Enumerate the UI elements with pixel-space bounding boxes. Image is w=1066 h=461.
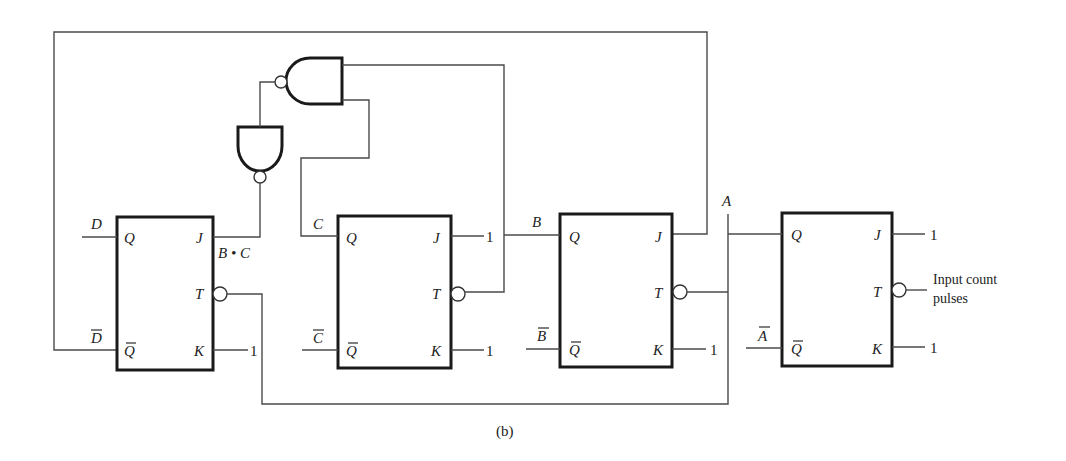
- svg-text:1: 1: [710, 342, 718, 358]
- clock-input-bubble: [892, 283, 906, 297]
- svg-text:1: 1: [486, 343, 494, 359]
- svg-text:Q: Q: [346, 230, 357, 246]
- flip-flop-a: A A Q Q J T K 1 1 Input count pulses: [721, 193, 997, 366]
- clock-inversion-bubble: [451, 287, 465, 301]
- svg-text:K: K: [430, 343, 442, 359]
- signal-c-label: C: [313, 216, 324, 232]
- svg-text:Q: Q: [791, 341, 802, 357]
- signal-bbar-label: B: [537, 328, 546, 344]
- svg-text:Q: Q: [569, 229, 580, 245]
- b-dot-c-label: B • C: [218, 245, 251, 261]
- svg-text:1: 1: [250, 343, 258, 359]
- flip-flop-b: B B Q Q J T K 1: [504, 214, 728, 367]
- signal-a-label: A: [721, 193, 732, 209]
- svg-text:Q: Q: [346, 343, 357, 359]
- svg-text:1: 1: [930, 340, 938, 356]
- signal-cbar-label: C: [313, 330, 324, 346]
- svg-text:K: K: [193, 343, 205, 359]
- svg-text:Q: Q: [124, 230, 135, 246]
- svg-text:Q: Q: [124, 343, 135, 359]
- signal-abar-label: A: [757, 328, 768, 344]
- svg-text:Q: Q: [569, 342, 580, 358]
- svg-text:K: K: [871, 341, 883, 357]
- nand-gate-top: [275, 58, 342, 104]
- svg-text:1: 1: [930, 227, 938, 243]
- counter-schematic: D D Q Q J T K 1 C C Q Q J T K 1 1 B B: [0, 0, 1066, 461]
- svg-text:K: K: [652, 342, 664, 358]
- clock-inversion-bubble: [213, 287, 227, 301]
- clock-inversion-bubble: [673, 285, 687, 299]
- signal-b-label: B: [532, 214, 541, 230]
- signal-dbar-label: D: [90, 330, 102, 346]
- svg-text:Q: Q: [791, 227, 802, 243]
- flip-flop-d: D D Q Q J T K 1: [82, 216, 258, 370]
- svg-text:pulses: pulses: [933, 291, 968, 306]
- input-pulses-label: Input count: [933, 272, 997, 287]
- signal-d-label: D: [90, 216, 102, 232]
- flip-flop-c: C C Q Q J T K 1 1: [302, 216, 494, 368]
- nand-gate-lower: [238, 127, 282, 183]
- figure-caption: (b): [496, 423, 514, 440]
- b-dot-c-wire: [213, 183, 260, 237]
- svg-text:1: 1: [486, 229, 494, 245]
